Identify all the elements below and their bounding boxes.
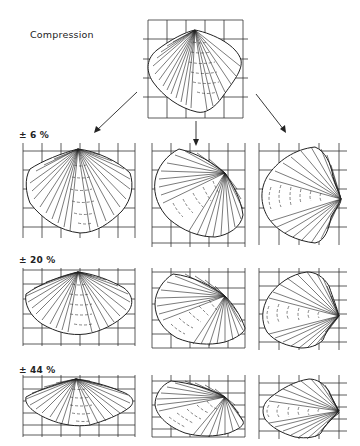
compression-deformation-figure: Compression: [0, 0, 360, 446]
shell-44pct-oblique-left: [20, 375, 138, 441]
shell-6pct-vertical: [149, 143, 249, 249]
arrow-down-left-icon: [94, 92, 137, 133]
direction-arrows: [0, 0, 360, 160]
shell-44pct-oblique-right: [255, 375, 351, 443]
shell-44pct-vertical: [149, 375, 249, 443]
row-label-20pct: ± 20 %: [19, 255, 56, 265]
shell-6pct-oblique-right: [255, 143, 351, 247]
shell-6pct-oblique-left: [20, 143, 138, 243]
row-label-6pct: ± 6 %: [19, 130, 49, 140]
shell-20pct-oblique-left: [20, 268, 138, 350]
arrow-down-right-icon: [256, 94, 286, 133]
shell-20pct-vertical: [149, 268, 249, 352]
shell-20pct-oblique-right: [255, 268, 351, 352]
row-label-44pct: ± 44 %: [19, 365, 56, 375]
